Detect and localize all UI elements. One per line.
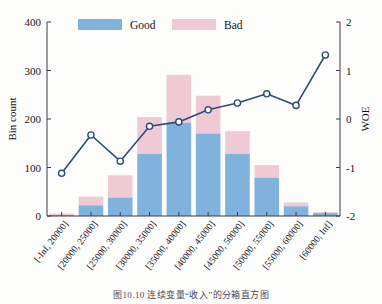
left-tick-label-100: 100 <box>25 162 42 174</box>
right-tick-label-0: 0 <box>346 113 352 125</box>
woe-marker-5 <box>205 107 211 113</box>
woe-line-group <box>59 52 329 177</box>
bar-good-6 <box>225 154 250 216</box>
legend-label-good: Good <box>130 19 156 31</box>
bars-group <box>49 75 337 216</box>
woe-marker-2 <box>117 158 123 164</box>
woe-marker-8 <box>293 102 299 108</box>
right-tick-label-2: 2 <box>346 16 352 28</box>
bar-bad-8 <box>284 202 309 206</box>
figure-caption: 图10.10 连续变量“收入”的分箱直方图 <box>0 288 382 301</box>
bar-bad-4 <box>167 75 192 123</box>
woe-marker-3 <box>146 123 152 129</box>
woe-marker-0 <box>59 170 65 176</box>
left-tick-label-400: 400 <box>25 16 42 28</box>
woe-marker-4 <box>176 119 182 125</box>
bar-bad-6 <box>225 131 250 154</box>
right-tick-label--2: -2 <box>346 210 355 222</box>
woe-marker-1 <box>88 132 94 138</box>
woe-marker-6 <box>234 100 240 106</box>
left-tick-label-200: 200 <box>25 113 42 125</box>
bar-bad-5 <box>196 96 221 134</box>
binning-histogram-chart: 0100200300400-2-1012[-Inf, 20000][20000,… <box>0 0 382 304</box>
left-axis-title: Bin count <box>6 97 18 140</box>
legend-swatch-bad <box>172 19 216 30</box>
bar-bad-7 <box>254 165 279 178</box>
left-tick-label-300: 300 <box>25 65 42 77</box>
legend: GoodBad <box>78 19 243 31</box>
right-axis-title: WOE <box>359 106 371 131</box>
right-tick-label--1: -1 <box>346 162 355 174</box>
bar-good-3 <box>137 154 162 216</box>
bar-good-4 <box>167 123 192 216</box>
woe-line <box>62 55 326 173</box>
bar-good-7 <box>254 178 279 216</box>
figure-container: 0100200300400-2-1012[-Inf, 20000][20000,… <box>0 0 382 304</box>
legend-swatch-good <box>78 19 122 30</box>
bar-good-5 <box>196 134 221 216</box>
legend-label-bad: Bad <box>224 19 243 31</box>
woe-marker-9 <box>322 52 328 58</box>
left-tick-label-0: 0 <box>36 210 42 222</box>
bar-bad-2 <box>108 175 133 197</box>
woe-marker-7 <box>264 91 270 97</box>
right-tick-label-1: 1 <box>346 65 352 77</box>
bar-bad-1 <box>79 197 104 206</box>
